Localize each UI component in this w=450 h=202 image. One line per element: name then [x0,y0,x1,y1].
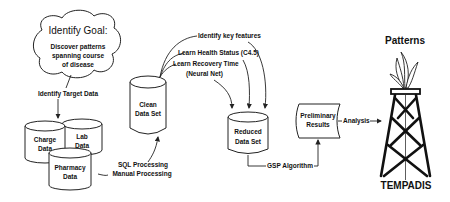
processing-connector [98,174,108,175]
reduced-data-label-1: Reduced [234,128,261,135]
gsp-algorithm-label: GSP Algorithm [267,162,313,170]
recovery-time-label: Learn Recovery Time [173,60,239,68]
health-status-label: Learn Health Status (C4.5) [178,49,259,57]
goal-cloud: Identify Goal: Discover patterns spannin… [33,10,120,78]
processing-arrow [148,137,158,162]
preliminary-results-box: Preliminary Results [296,104,340,138]
goal-line-3: of disease [62,61,94,68]
charge-data-label-1: Charge [34,136,57,144]
tempadis-title: TEMPADIS [381,180,432,191]
gsp-arrow [314,140,318,166]
preliminary-label-2: Results [306,121,330,128]
sql-processing-label: SQL Processing [118,161,168,169]
clean-data-set-cylinder: Clean Data Set [130,76,166,134]
reduced-data-set-cylinder: Reduced Data Set [228,112,268,154]
patterns-title: Patterns [385,35,425,46]
pharmacy-data-cylinder: Pharmacy Data [49,148,91,190]
goal-line-1: Discover patterns [51,43,106,51]
tempadis-process-diagram: Identify Goal: Discover patterns spannin… [0,0,450,202]
identify-features-label: Identify key features [198,32,261,40]
preliminary-label-1: Preliminary [300,112,336,120]
lab-data-label-1: Lab [76,133,88,140]
clean-data-label-1: Clean [139,101,157,108]
manual-processing-label: Manual Processing [112,170,171,178]
neural-net-label: (Neural Net) [186,70,223,78]
recovery-arrow [214,80,232,108]
health-arrow [243,60,249,108]
goal-line-2: spanning course [52,52,104,60]
oil-derrick-icon [381,52,430,180]
pharmacy-data-label-1: Pharmacy [54,164,85,172]
identify-target-label: Identify Target Data [38,90,99,98]
analysis-label: Analysis [343,117,370,125]
gsp-connector-left [248,155,266,166]
clean-data-label-2: Data Set [135,110,162,117]
pharmacy-data-label-2: Data [63,173,77,180]
reduced-data-label-2: Data Set [235,138,262,145]
goal-title: Identify Goal: [49,25,108,36]
